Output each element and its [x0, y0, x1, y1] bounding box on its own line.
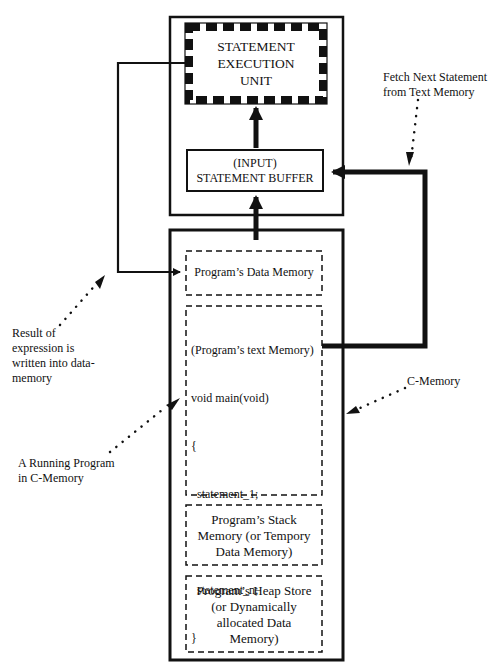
- code-line: void main(void): [191, 390, 314, 406]
- heap-line-4: Memory): [186, 631, 322, 647]
- code-line: (Program’s text Memory): [191, 342, 314, 358]
- statement-buffer-label: (INPUT) STATEMENT BUFFER: [187, 156, 323, 186]
- annotation-line: written into data-: [12, 356, 95, 371]
- statement-buffer-line-2: STATEMENT BUFFER: [187, 171, 323, 186]
- annotation-fetch-next: Fetch Next Statement from Text Memory: [383, 70, 487, 100]
- pointer-running-program: [110, 410, 162, 452]
- heap-line-2: (or Dynamically: [186, 599, 322, 615]
- annotation-line: memory: [12, 371, 95, 386]
- execution-unit-line-1: STATEMENT: [189, 38, 323, 55]
- heap-line-1: Program’s Heap Store: [186, 583, 322, 599]
- annotation-line: expression is: [12, 341, 95, 356]
- pointer-c-memory: [360, 388, 405, 408]
- code-line: statement_1;: [191, 486, 314, 502]
- annotation-line: in C-Memory: [18, 471, 115, 486]
- annotation-line: from Text Memory: [383, 85, 487, 100]
- heap-store-label: Program’s Heap Store (or Dynamically all…: [186, 583, 322, 647]
- arrow-result-to-data-memory: [118, 63, 185, 272]
- annotation-running-program: A Running Program in C-Memory: [18, 456, 115, 486]
- statement-buffer-line-1: (INPUT): [187, 156, 323, 171]
- stack-line-1: Program’s Stack: [186, 512, 322, 528]
- execution-unit-line-3: UNIT: [189, 72, 323, 89]
- stack-line-2: Memory (or Tempory: [186, 528, 322, 544]
- pointer-fetch-next: [411, 100, 418, 160]
- annotation-line: Fetch Next Statement: [383, 70, 487, 85]
- stack-memory-label: Program’s Stack Memory (or Tempory Data …: [186, 512, 322, 560]
- annotation-line: A Running Program: [18, 456, 115, 471]
- execution-unit-label: STATEMENT EXECUTION UNIT: [189, 38, 323, 89]
- annotation-c-memory: C-Memory: [407, 374, 460, 389]
- heap-line-3: allocated Data: [186, 615, 322, 631]
- annotation-result-written: Result of expression is written into dat…: [12, 326, 95, 386]
- data-memory-label: Program’s Data Memory: [186, 265, 322, 280]
- stack-line-3: Data Memory): [186, 544, 322, 560]
- execution-unit-line-2: EXECUTION: [189, 55, 323, 72]
- arrow-fetch-to-buffer: [322, 172, 425, 346]
- pointer-result-written: [60, 282, 98, 325]
- annotation-line: Result of: [12, 326, 95, 341]
- code-line: {: [191, 438, 314, 454]
